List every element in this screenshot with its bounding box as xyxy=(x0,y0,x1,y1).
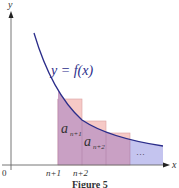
ellipsis: ··· xyxy=(136,149,145,159)
function-curve xyxy=(34,33,163,146)
y-axis-label: y xyxy=(7,0,13,10)
rect-label-a: a xyxy=(61,121,68,136)
rect-label-sub: n+1 xyxy=(70,130,82,138)
tick-label-n-plus-1: n+1 xyxy=(46,168,61,178)
function-label: y = f(x) xyxy=(49,63,93,79)
y-axis-arrow-icon xyxy=(9,11,14,18)
rect-label-a2: a xyxy=(84,134,91,149)
tick-label-n-plus-2: n+2 xyxy=(73,168,89,178)
diagram-canvas: y x 0 y = f(x) n+1 n+2 a n+1 a n+2 ··· F… xyxy=(0,0,179,188)
x-axis-arrow-icon xyxy=(163,163,170,168)
rect-label-sub2: n+2 xyxy=(93,143,105,151)
origin-label: 0 xyxy=(2,168,7,178)
area-under-curve xyxy=(58,30,163,165)
figure-caption: Figure 5 xyxy=(72,179,108,188)
x-axis-label: x xyxy=(171,159,177,170)
